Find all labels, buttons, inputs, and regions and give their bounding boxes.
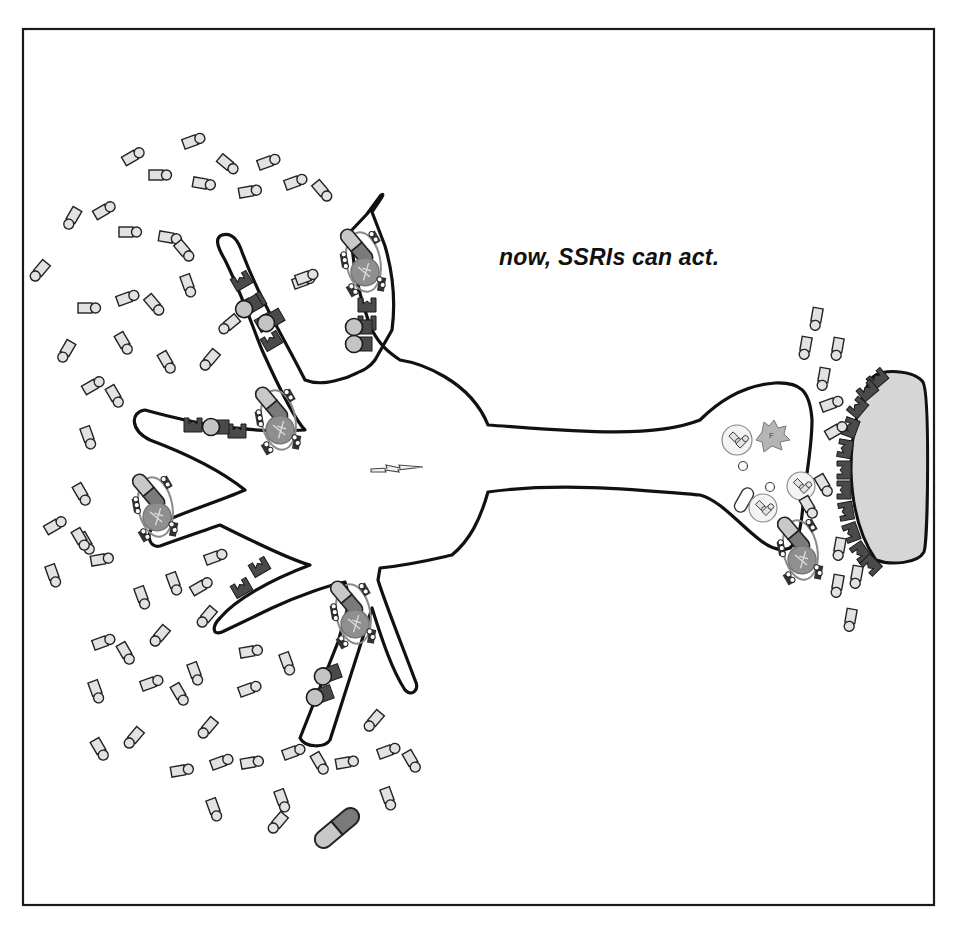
occupied-receptor-icon: [346, 319, 373, 336]
vesicle-icon: [722, 425, 752, 455]
serotonin-molecule: [149, 170, 172, 180]
serotonin-molecule: [119, 227, 142, 237]
vesicle-icon: [749, 494, 777, 522]
caption-text: now, SSRIs can act.: [499, 244, 719, 271]
small-vesicle-icon: [739, 462, 748, 471]
occupied-receptor-icon: [346, 336, 373, 353]
vesicle-icon: [787, 472, 815, 500]
svg-text:F: F: [769, 431, 774, 440]
occupied-receptor-icon: [203, 419, 230, 436]
neuron-diagram: F: [0, 0, 956, 928]
small-vesicle-icon: [766, 483, 775, 492]
serotonin-molecule: [78, 303, 101, 313]
